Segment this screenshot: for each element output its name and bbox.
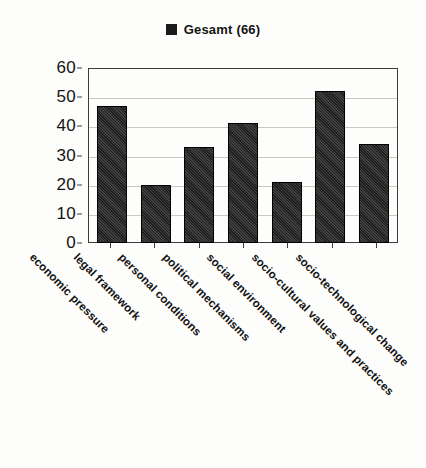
x-axis-tick-label: economic pressure [28, 251, 112, 335]
bar [97, 106, 127, 243]
x-axis-tick-mark [287, 243, 288, 248]
legend-swatch-icon [166, 24, 177, 35]
y-axis-tick-label: 20 [56, 175, 76, 195]
x-axis-tick-mark [376, 243, 377, 248]
x-axis-tick-mark [332, 243, 333, 248]
y-axis-tick-mark [77, 243, 82, 244]
y-axis-tick-label: 10 [56, 204, 76, 224]
chart-legend: Gesamt (66) [0, 22, 426, 37]
y-axis-tick-label: 50 [56, 87, 76, 107]
y-axis: 6050403020100 [38, 68, 82, 243]
y-axis-tick-label: 40 [56, 116, 76, 136]
legend-label: Gesamt (66) [184, 22, 261, 37]
bar [272, 182, 302, 243]
y-axis-tick-mark [77, 68, 82, 69]
x-axis-labels: economic pressurelegal frameworkpersonal… [88, 243, 398, 453]
y-axis-tick-mark [77, 97, 82, 98]
bar [184, 147, 214, 243]
y-axis-tick-mark [77, 213, 82, 214]
bar [359, 144, 389, 243]
y-axis-tick-mark [77, 155, 82, 156]
y-axis-tick-label: 60 [56, 58, 76, 78]
bar-chart: Gesamt (66) 6050403020100 economic press… [0, 0, 426, 468]
y-axis-tick-label: 30 [56, 146, 76, 166]
x-axis-tick-label: personal conditions [116, 251, 203, 338]
y-axis-tick-mark [77, 184, 82, 185]
x-axis-tick-mark [110, 243, 111, 248]
bars-container [88, 68, 398, 243]
x-axis-tick-mark [243, 243, 244, 248]
x-axis-tick-label: social environment [205, 251, 289, 335]
bar [315, 91, 345, 243]
y-axis-tick-mark [77, 126, 82, 127]
x-axis-tick-mark [199, 243, 200, 248]
y-axis-tick-label: 0 [66, 233, 76, 253]
bar [228, 123, 258, 243]
x-axis-tick-label: political mechanisms [161, 251, 253, 343]
bar [141, 185, 171, 243]
x-axis-tick-mark [154, 243, 155, 248]
